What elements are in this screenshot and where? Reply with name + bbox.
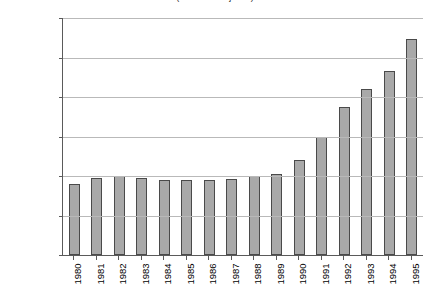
- x-axis-label-slot: 1987: [220, 261, 243, 292]
- bar: [181, 180, 192, 255]
- x-axis-label-slot: 1993: [355, 261, 378, 292]
- x-axis-tick-label: 1993: [365, 263, 376, 284]
- x-axis-labels: 1980198119821983198419851986198719881989…: [62, 261, 422, 292]
- gridline: [63, 58, 423, 59]
- x-axis-tick-mark: [321, 256, 322, 260]
- x-axis-label-slot: 1990: [287, 261, 310, 292]
- x-axis-tick-mark: [343, 256, 344, 260]
- y-axis-tick-mark: [59, 97, 63, 98]
- x-axis-tick-label: 1984: [162, 263, 173, 284]
- x-axis-tick-mark: [411, 256, 412, 260]
- bar: [361, 89, 372, 255]
- x-axis-label-slot: 1995: [400, 261, 423, 292]
- plot-area: 30,00025,00020,00015,00010,0005,0000: [62, 18, 423, 256]
- bar: [204, 180, 215, 255]
- x-axis-tick-mark: [186, 256, 187, 260]
- x-axis-label-slot: 1986: [197, 261, 220, 292]
- x-axis-tick-mark: [208, 256, 209, 260]
- bar: [339, 107, 350, 255]
- x-axis-tick-label: 1995: [410, 263, 421, 284]
- x-axis-tick-mark: [276, 256, 277, 260]
- gridline: [63, 18, 423, 19]
- x-axis-label-slot: 1985: [175, 261, 198, 292]
- x-axis-tick-label: 1981: [95, 263, 106, 284]
- x-axis-label-slot: 1984: [152, 261, 175, 292]
- bar: [384, 71, 395, 255]
- x-axis-label-slot: 1992: [332, 261, 355, 292]
- x-axis-tick-mark: [253, 256, 254, 260]
- y-axis-tick-mark: [59, 58, 63, 59]
- x-axis-tick-label: 1990: [297, 263, 308, 284]
- x-axis-tick-mark: [163, 256, 164, 260]
- bar: [406, 39, 417, 255]
- x-axis-label-slot: 1988: [242, 261, 265, 292]
- x-axis-tick-label: 1986: [207, 263, 218, 284]
- y-axis-tick-mark: [59, 137, 63, 138]
- gridline: [63, 176, 423, 177]
- y-axis-tick-mark: [59, 18, 63, 19]
- x-axis-label-slot: 1989: [265, 261, 288, 292]
- x-axis-label-slot: 1980: [62, 261, 85, 292]
- x-axis-tick-label: 1992: [342, 263, 353, 284]
- x-axis-tick-mark: [141, 256, 142, 260]
- x-axis-label-slot: 1983: [130, 261, 153, 292]
- y-axis-tick-mark: [59, 176, 63, 177]
- x-axis-tick-label: 1987: [230, 263, 241, 284]
- x-axis-label-slot: 1991: [310, 261, 333, 292]
- bar-chart: (number of injuries) 30,00025,00020,0001…: [0, 0, 430, 292]
- bar: [159, 180, 170, 255]
- x-axis-tick-label: 1983: [140, 263, 151, 284]
- x-axis-tick-label: 1994: [387, 263, 398, 284]
- bar: [294, 160, 305, 255]
- y-axis-tick-mark: [59, 216, 63, 217]
- x-axis-label-slot: 1981: [85, 261, 108, 292]
- x-axis-tick-mark: [231, 256, 232, 260]
- x-axis-tick-label: 1980: [72, 263, 83, 284]
- x-axis-label-slot: 1982: [107, 261, 130, 292]
- gridline: [63, 97, 423, 98]
- x-axis-label-slot: 1994: [377, 261, 400, 292]
- x-axis-tick-label: 1985: [185, 263, 196, 284]
- x-axis-tick-label: 1991: [320, 263, 331, 284]
- x-axis-tick-mark: [298, 256, 299, 260]
- bar: [226, 179, 237, 255]
- x-axis-tick-mark: [118, 256, 119, 260]
- x-axis-tick-mark: [96, 256, 97, 260]
- x-axis-tick-label: 1982: [117, 263, 128, 284]
- x-axis-tick-label: 1988: [252, 263, 263, 284]
- x-axis-tick-mark: [366, 256, 367, 260]
- x-axis-tick-label: 1989: [275, 263, 286, 284]
- x-axis-tick-mark: [73, 256, 74, 260]
- gridline: [63, 216, 423, 217]
- bar: [316, 137, 327, 255]
- x-axis-tick-mark: [388, 256, 389, 260]
- chart-title: (number of injuries): [0, 0, 430, 2]
- bar: [69, 184, 80, 255]
- gridline: [63, 137, 423, 138]
